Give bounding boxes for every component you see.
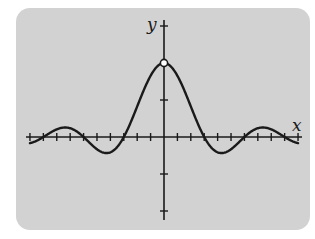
axes [26,20,302,220]
y-axis-label: y [146,14,157,34]
x-axis-label: x [292,115,302,135]
sinc-chart: x y [0,0,315,239]
open-circle-hole [160,59,167,66]
